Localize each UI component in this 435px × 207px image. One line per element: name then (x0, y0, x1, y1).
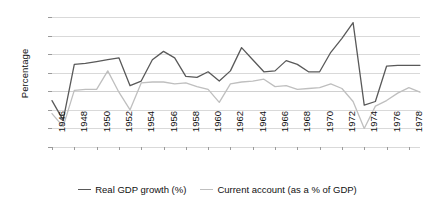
x-tick-label: 1954 (145, 111, 156, 151)
x-tick-label: 1972 (346, 111, 357, 151)
x-tick-label: 1946 (56, 111, 67, 151)
x-tick-label: 1964 (257, 111, 268, 151)
legend-swatch-icon (200, 189, 213, 191)
legend-item[interactable]: Real GDP growth (%) (78, 184, 186, 195)
x-tick-mark (409, 147, 410, 150)
x-tick-label: 1978 (413, 111, 424, 151)
x-tick-label: 1976 (391, 111, 402, 151)
x-tick-mark (275, 147, 276, 150)
x-tick-mark (208, 147, 209, 150)
x-tick-label: 1968 (301, 111, 312, 151)
legend-label: Real GDP growth (%) (95, 184, 186, 195)
x-tick-mark (230, 147, 231, 150)
legend-swatch-icon (78, 189, 91, 191)
x-tick-mark (164, 147, 165, 150)
x-tick-mark (297, 147, 298, 150)
x-tick-label: 1970 (324, 111, 335, 151)
chart-legend: Real GDP growth (%)Current account (as a… (0, 184, 435, 195)
x-tick-mark (186, 147, 187, 150)
x-tick-label: 1966 (279, 111, 290, 151)
x-tick-label: 1950 (101, 111, 112, 151)
x-tick-label: 1948 (78, 111, 89, 151)
x-tick-label: 1962 (234, 111, 245, 151)
x-tick-label: 1958 (190, 111, 201, 151)
legend-item[interactable]: Current account (as a % of GDP) (200, 184, 356, 195)
x-tick-label: 1952 (123, 111, 134, 151)
x-tick-label: 1960 (212, 111, 223, 151)
x-tick-mark (119, 147, 120, 150)
x-tick-mark (342, 147, 343, 150)
chart-screenshot: Percentage 86420-2-4-6 19461948195019521… (0, 0, 435, 207)
x-tick-mark (253, 147, 254, 150)
x-tick-mark (52, 147, 53, 150)
x-tick-mark (364, 147, 365, 150)
x-tick-mark (97, 147, 98, 150)
legend-label: Current account (as a % of GDP) (217, 184, 356, 195)
x-tick-label: 1956 (168, 111, 179, 151)
x-tick-mark (141, 147, 142, 150)
x-tick-mark (74, 147, 75, 150)
x-tick-label: 1974 (368, 111, 379, 151)
x-tick-mark (320, 147, 321, 150)
x-tick-mark (387, 147, 388, 150)
